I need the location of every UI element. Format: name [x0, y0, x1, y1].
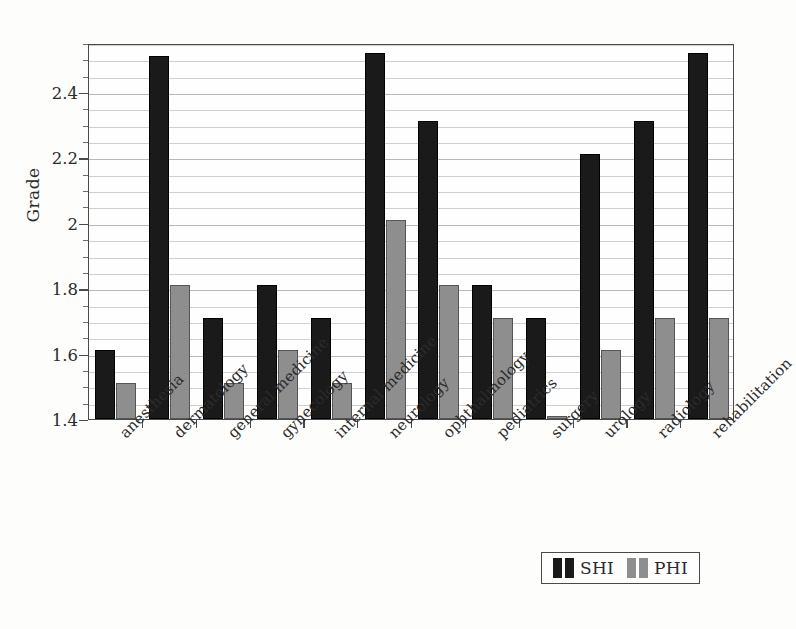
y-tick-label: 1.4 — [34, 411, 78, 430]
bar-shi-ophthalmology — [418, 121, 438, 419]
y-tick-minor — [83, 404, 88, 405]
bar-shi-anesthesia — [95, 350, 115, 419]
y-tick-minor — [83, 273, 88, 274]
bar-phi-radiology — [655, 318, 675, 419]
chart-legend: SHIPHI — [541, 552, 700, 584]
y-axis-tick-labels: 1.41.61.822.22.4 — [26, 0, 78, 629]
y-tick-major — [79, 355, 88, 356]
y-tick-minor — [83, 240, 88, 241]
gridline-minor — [89, 110, 733, 111]
legend-swatch-block — [627, 558, 636, 578]
legend-swatch-block — [553, 558, 562, 578]
y-tick-label: 1.6 — [34, 345, 78, 364]
legend-swatch-block — [565, 558, 574, 578]
y-tick-label: 2.2 — [34, 149, 78, 168]
y-tick-minor — [83, 207, 88, 208]
y-tick-minor — [83, 387, 88, 388]
gridline-major — [89, 94, 733, 95]
y-tick-major — [79, 158, 88, 159]
bar-shi-neurology — [365, 53, 385, 419]
y-tick-minor — [83, 142, 88, 143]
bar-phi-urology — [601, 350, 621, 419]
y-tick-minor — [83, 322, 88, 323]
legend-swatch-phi — [627, 558, 648, 578]
legend-entry-phi: PHI — [627, 558, 688, 578]
bar-phi-rehabilitation — [709, 318, 729, 419]
bar-shi-radiology — [634, 121, 654, 419]
y-tick-major — [79, 93, 88, 94]
legend-swatch-shi — [553, 558, 574, 578]
bar-phi-ophthalmology — [439, 285, 459, 419]
bar-shi-urology — [580, 154, 600, 419]
y-tick-minor — [83, 306, 88, 307]
bar-shi-rehabilitation — [688, 53, 708, 419]
legend-entry-shi: SHI — [553, 558, 614, 578]
legend-label-shi: SHI — [580, 558, 614, 578]
bar-shi-dermatology — [149, 56, 169, 419]
y-tick-minor — [83, 338, 88, 339]
y-tick-minor — [83, 175, 88, 176]
y-tick-minor — [83, 77, 88, 78]
y-tick-minor — [83, 371, 88, 372]
y-tick-major — [79, 289, 88, 290]
gridline-minor — [89, 78, 733, 79]
y-tick-major — [79, 420, 88, 421]
y-tick-minor — [83, 191, 88, 192]
y-tick-minor — [83, 44, 88, 45]
y-tick-major — [79, 224, 88, 225]
legend-swatch-block — [639, 558, 648, 578]
y-tick-minor — [83, 109, 88, 110]
gridline-minor — [89, 45, 733, 46]
y-tick-label: 2.4 — [34, 84, 78, 103]
y-tick-label: 2 — [34, 214, 78, 233]
gridline-minor — [89, 61, 733, 62]
y-tick-minor — [83, 257, 88, 258]
y-tick-minor — [83, 126, 88, 127]
y-tick-minor — [83, 60, 88, 61]
legend-label-phi: PHI — [654, 558, 688, 578]
y-tick-label: 1.8 — [34, 280, 78, 299]
bar-phi-dermatology — [170, 285, 190, 419]
